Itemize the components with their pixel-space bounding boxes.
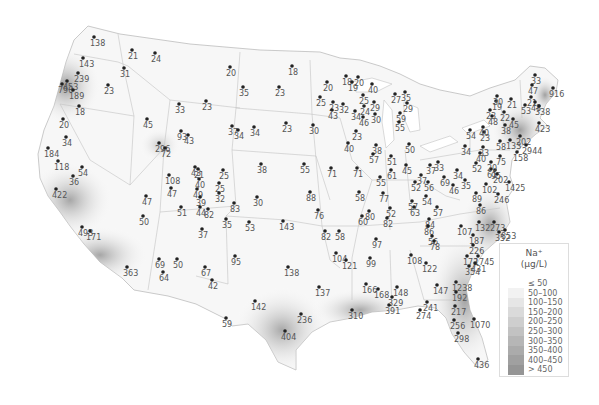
legend-title-ion: Na⁺ xyxy=(500,248,568,259)
station-value: 431 xyxy=(471,265,486,274)
station-value: 24 xyxy=(151,55,161,64)
station-value: 142 xyxy=(251,303,266,312)
station-value: 148 xyxy=(393,289,408,298)
station-value: 43 xyxy=(328,112,338,121)
station-value: 46 xyxy=(359,119,369,128)
station-value: 71 xyxy=(327,170,337,179)
station-value: 60 xyxy=(358,218,368,227)
station-value: 89 xyxy=(472,195,482,204)
station-value: 46 xyxy=(449,187,459,196)
station-value: 75 xyxy=(496,158,506,167)
station-value: 20 xyxy=(226,69,236,78)
station-value: 23 xyxy=(202,103,212,112)
station-value: 58 xyxy=(335,233,345,242)
station-value: 64 xyxy=(159,274,169,283)
station-value: 102 xyxy=(482,186,497,195)
station-value: 226 xyxy=(469,247,484,256)
station-value: 132 xyxy=(475,224,490,233)
station-value: 23 xyxy=(275,89,285,98)
station-value: 23 xyxy=(486,112,496,121)
station-value: 20 xyxy=(323,84,333,93)
station-value: 108 xyxy=(407,257,422,266)
station-value: 916 xyxy=(549,90,564,99)
station-value: 2944 xyxy=(522,147,542,156)
station-value: 47 xyxy=(167,190,177,199)
station-value: 55 xyxy=(395,124,405,133)
station-value: 34 xyxy=(234,132,244,141)
station-value: 72 xyxy=(161,150,171,159)
station-value: 69 xyxy=(155,261,165,270)
station-value: 34 xyxy=(62,139,72,148)
station-value: 42 xyxy=(208,282,218,291)
legend-title-units: (µg/L) xyxy=(500,259,568,270)
station-value: 422 xyxy=(52,191,67,200)
station-value: 76 xyxy=(314,212,324,221)
station-value: 338 xyxy=(535,108,550,117)
station-value: 27 xyxy=(391,96,401,105)
station-value: 30 xyxy=(253,199,263,208)
legend: Na⁺ (µg/L) ≤ 5050–100100–150150–200200–2… xyxy=(499,243,569,377)
station-value: 43 xyxy=(184,137,194,146)
station-value: 32 xyxy=(215,195,225,204)
station-value: 67 xyxy=(201,269,211,278)
station: 853 xyxy=(501,228,516,241)
station-value: 53 xyxy=(245,224,255,233)
station-value: 47 xyxy=(142,198,152,207)
station-value: 55 xyxy=(300,166,310,175)
station-value: 59 xyxy=(222,320,232,329)
station-value: 25 xyxy=(359,97,369,106)
station-value: 51 xyxy=(387,158,397,167)
station-value: 19 xyxy=(348,84,358,93)
station-value: 404 xyxy=(281,333,296,342)
station-value: 121 xyxy=(342,262,357,271)
station-value: 217 xyxy=(451,308,466,317)
legend-swatch xyxy=(508,365,524,375)
station-value: 38 xyxy=(257,166,267,175)
legend-title: Na⁺ (µg/L) xyxy=(500,248,568,270)
station-value: 192 xyxy=(452,294,467,303)
station-value: 82 xyxy=(204,211,214,220)
station-value: 50 xyxy=(173,261,183,270)
station-value: 23 xyxy=(352,133,362,142)
station-value: 118 xyxy=(54,163,69,172)
station-value: 107 xyxy=(457,228,472,237)
station-value: 55 xyxy=(376,179,386,188)
station-value: 97 xyxy=(372,241,382,250)
station-value: 82 xyxy=(383,220,393,229)
station-value: 30 xyxy=(493,98,503,107)
station: 1070 xyxy=(470,317,490,330)
station-value: 37 xyxy=(417,177,427,186)
station-value: 40 xyxy=(344,145,354,154)
station-value: 61 xyxy=(387,172,397,181)
station-value: 50 xyxy=(139,218,149,227)
station-value: 95 xyxy=(231,258,241,267)
station-value: 58 xyxy=(355,194,365,203)
station-value: 35 xyxy=(222,221,232,230)
station-value: 71 xyxy=(353,170,363,179)
station-value: 25 xyxy=(316,99,326,108)
station-value: 256 xyxy=(450,322,465,331)
station-value: 363 xyxy=(123,269,138,278)
station-value: 37 xyxy=(198,231,208,240)
station-value: 35 xyxy=(239,89,249,98)
station-value: 54 xyxy=(466,132,476,141)
station-value: 33 xyxy=(479,149,489,158)
station-value: 51 xyxy=(177,209,187,218)
station-value: 18 xyxy=(75,108,85,117)
legend-bin-label: > 450 xyxy=(528,365,553,374)
station-value: 45 xyxy=(509,121,519,130)
station-value: 54 xyxy=(78,169,88,178)
station-value: 29 xyxy=(403,105,413,114)
station-value: 29 xyxy=(370,104,380,113)
station-value: 21 xyxy=(507,101,517,110)
station-value: 99 xyxy=(366,260,376,269)
station-value: 236 xyxy=(297,316,312,325)
station-value: 189 xyxy=(69,92,84,101)
station-value: 57 xyxy=(369,156,379,165)
station-value: 168 xyxy=(374,291,389,300)
station-value: 83 xyxy=(230,205,240,214)
station-value: 35 xyxy=(461,182,471,191)
station-value: 122 xyxy=(422,265,437,274)
station-value: 45 xyxy=(402,167,412,176)
station-value: 31 xyxy=(120,70,130,79)
